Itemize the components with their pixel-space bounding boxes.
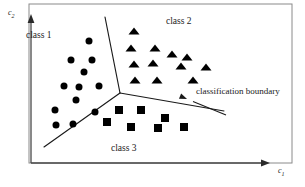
marker-circle: [53, 122, 60, 129]
data-markers-group: [52, 28, 212, 132]
x-axis-arrowhead: [261, 160, 270, 167]
series-class-3: [103, 106, 188, 132]
series-class-1: [52, 38, 103, 129]
marker-square: [154, 124, 162, 132]
marker-circle: [76, 84, 83, 91]
marker-square: [137, 106, 145, 114]
marker-square: [161, 114, 169, 122]
marker-circle: [68, 57, 75, 64]
y-axis-label: c2: [8, 8, 15, 19]
marker-triangle: [167, 51, 178, 58]
marker-square: [103, 118, 111, 126]
marker-circle: [86, 38, 93, 45]
marker-circle: [92, 109, 99, 116]
marker-triangle: [129, 61, 140, 68]
class-2-label: class 2: [166, 16, 192, 26]
marker-triangle: [201, 64, 212, 71]
marker-circle: [89, 57, 96, 64]
x-axis-label-subscript: 1: [282, 171, 285, 177]
marker-triangle: [188, 77, 199, 84]
marker-square: [115, 106, 123, 114]
frame-rect: [29, 4, 292, 163]
series-class-2: [126, 28, 212, 84]
x-axis-label: c1: [278, 166, 285, 177]
y-axis-label-subscript: 2: [12, 13, 15, 19]
marker-triangle: [148, 60, 159, 67]
class-1-label: class 1: [26, 30, 52, 40]
marker-circle: [52, 107, 59, 114]
marker-circle: [70, 121, 77, 128]
figure-frame: [29, 4, 292, 163]
marker-square: [127, 123, 135, 131]
marker-circle: [73, 97, 80, 104]
upper-branch: [105, 17, 120, 93]
marker-circle: [96, 83, 103, 90]
annotation-arrowhead: [179, 93, 187, 99]
marker-triangle: [176, 63, 187, 70]
marker-triangle: [129, 28, 140, 35]
marker-circle: [81, 69, 88, 76]
marker-triangle: [130, 77, 141, 84]
classification-boundary-annotation: classification boundary: [196, 86, 280, 96]
marker-triangle: [150, 45, 161, 52]
marker-triangle: [126, 45, 137, 52]
class-3-label: class 3: [111, 143, 137, 153]
annotation-arrow-line: [193, 102, 226, 115]
marker-square: [180, 123, 188, 131]
marker-circle: [61, 83, 68, 90]
marker-triangle: [182, 54, 193, 61]
classification-boundary-figure: c2 c1 class 1 class 2 class 3 classifica…: [0, 0, 305, 187]
marker-triangle: [152, 77, 163, 84]
